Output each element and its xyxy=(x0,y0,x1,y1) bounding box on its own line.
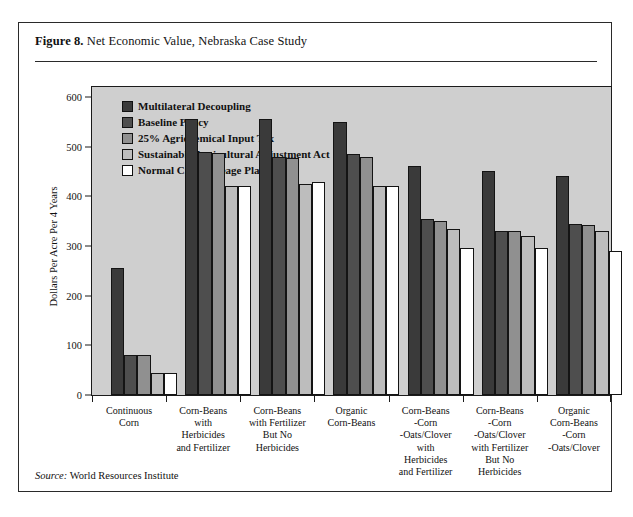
y-axis-tick-label: 600 xyxy=(66,91,82,102)
x-axis-tick-mark xyxy=(92,396,93,402)
y-axis-tick-label: 200 xyxy=(66,290,82,301)
source-text: World Resources Institute xyxy=(70,470,179,481)
x-axis-category-label: OrganicCorn-Beans-Corn-Oats/Clover xyxy=(519,405,629,454)
bar xyxy=(434,221,447,395)
bar xyxy=(373,186,386,395)
y-axis-tick-label: 0 xyxy=(77,390,82,401)
bar xyxy=(386,186,399,395)
bar xyxy=(137,355,150,395)
bar xyxy=(347,154,360,395)
bar xyxy=(408,166,421,395)
bar xyxy=(259,119,272,395)
bar xyxy=(272,157,285,395)
bar xyxy=(569,224,582,395)
bar xyxy=(111,268,124,395)
y-axis-tick-label: 500 xyxy=(66,141,82,152)
bar xyxy=(151,373,164,395)
bar xyxy=(447,229,460,395)
bars-layer xyxy=(92,87,611,395)
x-axis-tick-mark xyxy=(240,396,241,402)
x-axis-tick-mark xyxy=(389,396,390,402)
bar xyxy=(521,236,534,395)
bar xyxy=(212,153,225,395)
bar xyxy=(312,182,325,395)
figure-title: Figure 8. Net Economic Value, Nebraska C… xyxy=(35,34,307,49)
x-axis-tick-mark xyxy=(610,396,611,402)
bar xyxy=(595,231,608,395)
bar xyxy=(238,186,251,395)
bar xyxy=(556,176,569,395)
bar xyxy=(333,122,346,395)
x-axis-tick-mark xyxy=(537,396,538,402)
y-axis: 0100200300400500600 xyxy=(19,86,91,396)
bar xyxy=(360,157,373,395)
source-note: Source: World Resources Institute xyxy=(35,470,179,481)
title-divider xyxy=(35,61,597,62)
bar xyxy=(225,186,238,395)
figure-card: Figure 8. Net Economic Value, Nebraska C… xyxy=(18,22,612,492)
figure-number: Figure 8. xyxy=(35,34,84,48)
bar xyxy=(421,219,434,395)
bar xyxy=(124,355,137,395)
y-axis-tick-label: 100 xyxy=(66,340,82,351)
x-axis-tick-mark xyxy=(314,396,315,402)
y-axis-tick-label: 400 xyxy=(66,191,82,202)
bar xyxy=(535,248,548,395)
bar xyxy=(609,251,622,395)
x-axis-tick-mark xyxy=(463,396,464,402)
bar xyxy=(185,119,198,395)
bar xyxy=(460,248,473,395)
bar xyxy=(164,373,177,395)
figure-title-text: Net Economic Value, Nebraska Case Study xyxy=(87,34,307,48)
y-axis-tick-label: 300 xyxy=(66,240,82,251)
bar xyxy=(582,225,595,395)
bar xyxy=(482,171,495,395)
source-label: Source: xyxy=(35,470,67,481)
plot-area: Multilateral DecouplingBaseline Policy25… xyxy=(91,86,612,396)
bar xyxy=(286,158,299,395)
x-axis-tick-mark xyxy=(166,396,167,402)
bar xyxy=(299,184,312,395)
bar xyxy=(198,152,211,395)
bar xyxy=(495,231,508,395)
bar xyxy=(508,231,521,395)
